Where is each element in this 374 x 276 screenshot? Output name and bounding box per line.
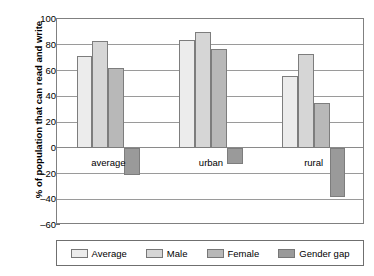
category-label-rural: rural <box>304 157 323 168</box>
legend-swatch-icon <box>71 249 88 258</box>
bar-urban-male <box>195 32 211 148</box>
legend-item-female[interactable]: Female <box>207 248 260 259</box>
bar-urban-gender-gap <box>227 148 243 165</box>
y-tick-label--20: –20 <box>12 167 56 178</box>
y-tick-label-80: 80 <box>12 38 56 49</box>
category-label-urban: urban <box>199 157 223 168</box>
legend-swatch-icon <box>278 249 295 258</box>
legend-item-average[interactable]: Average <box>71 248 127 259</box>
y-tick-label-0: 0 <box>12 141 56 152</box>
y-tick-label-60: 60 <box>12 64 56 75</box>
bar-group-rural <box>262 19 365 223</box>
y-tick-label--40: –40 <box>12 193 56 204</box>
legend-label: Average <box>92 248 127 259</box>
legend-label: Male <box>167 248 188 259</box>
y-tick-label-100: 100 <box>12 13 56 24</box>
y-axis-ticks: 100806040200–20–40–60 <box>0 18 56 224</box>
bar-rural-gender-gap <box>330 148 346 197</box>
chart-legend: AverageMaleFemaleGender gap <box>56 240 364 266</box>
bar-rural-average <box>282 76 298 148</box>
bar-average-male <box>92 41 108 148</box>
chart-figure: % of population that can read and write … <box>0 0 374 276</box>
legend-label: Female <box>228 248 260 259</box>
legend-swatch-icon <box>207 249 224 258</box>
legend-swatch-icon <box>146 249 163 258</box>
bar-rural-female <box>314 103 330 148</box>
bar-group-average <box>57 19 160 223</box>
category-label-average: average <box>91 157 125 168</box>
bar-urban-female <box>211 49 227 148</box>
y-tick-label-20: 20 <box>12 116 56 127</box>
legend-item-gender-gap[interactable]: Gender gap <box>278 248 349 259</box>
y-tick-label--60: –60 <box>12 219 56 230</box>
plot-area: averageurbanrural <box>56 18 364 224</box>
y-tick-label-40: 40 <box>12 90 56 101</box>
bar-rural-male <box>298 54 314 148</box>
bar-average-average <box>77 56 93 147</box>
bar-urban-average <box>179 40 195 148</box>
bar-average-gender-gap <box>124 148 140 175</box>
legend-item-male[interactable]: Male <box>146 248 188 259</box>
bar-average-female <box>108 68 124 148</box>
legend-label: Gender gap <box>299 248 349 259</box>
bar-group-urban <box>160 19 263 223</box>
